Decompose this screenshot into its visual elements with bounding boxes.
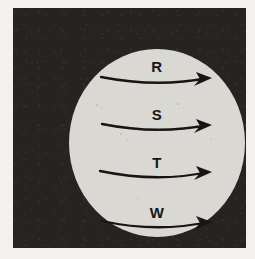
diagram-plate: R S T W <box>13 8 246 248</box>
figure-root: R S T W <box>0 0 255 259</box>
band-label-s: S <box>152 106 163 123</box>
band-label-t: T <box>152 154 162 171</box>
band-label-w: W <box>150 204 165 221</box>
diagram-canvas: R S T W <box>13 8 246 248</box>
band-label-r: R <box>151 58 162 75</box>
